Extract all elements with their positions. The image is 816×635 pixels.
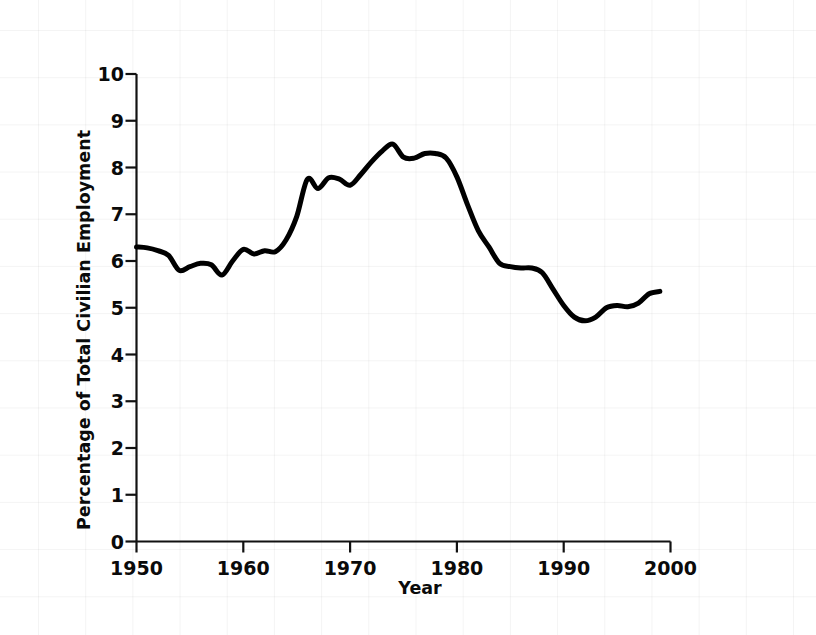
y-tick-label-0: 0: [80, 531, 124, 553]
data-series-line: [137, 144, 660, 321]
axis-lines: [136, 74, 671, 542]
x-tick-label-1950: 1950: [110, 557, 163, 579]
chart-figure: 012345678910 195019601970198019902000 Pe…: [0, 0, 816, 635]
x-tick-label-1980: 1980: [430, 557, 483, 579]
x-axis-label: Year: [398, 578, 441, 598]
y-tick-marks: [126, 74, 137, 542]
y-tick-label-10: 10: [80, 63, 124, 85]
x-tick-label-1960: 1960: [217, 557, 270, 579]
y-axis-label: Percentage of Total Civilian Employment: [74, 130, 94, 530]
x-tick-label-2000: 2000: [644, 557, 697, 579]
x-tick-label-1970: 1970: [324, 557, 377, 579]
y-tick-label-9: 9: [80, 110, 124, 132]
x-tick-marks: [137, 542, 671, 553]
x-tick-label-1990: 1990: [537, 557, 590, 579]
